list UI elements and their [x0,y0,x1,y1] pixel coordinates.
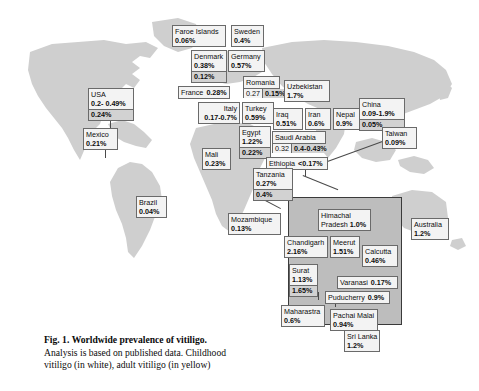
label-iraq[interactable]: Iraq 0.51% [273,108,303,130]
label-romania[interactable]: Romania 0.27 0.15% [243,76,280,98]
label-child-value: 0.6% [308,119,324,128]
label-name: USA [91,90,106,99]
label-child-value: 0.38% [194,61,214,70]
label-sweden[interactable]: Sweden 0.4% [231,25,264,47]
label-name: Pachai Malai [333,311,374,320]
label-usa[interactable]: USA 0.2- 0.49% 0.24% [88,88,134,121]
label-name: Uzbekistan [287,82,323,91]
label-adult-value: 0.24% [89,109,133,119]
label-nepal[interactable]: Nepal 0.9% [333,108,361,130]
label-name: Sri Lanka [347,332,377,341]
label-name: Mexico [86,130,109,139]
label-child-value: 0.13% [231,224,251,233]
label-child-value: 0.06% [175,36,195,45]
label-child-value: 0.6% [284,316,300,325]
label-saudi-arabia[interactable]: Saudi Arabia 0.32 0.4-0.43% [272,131,326,153]
label-value-split: 0.27 0.15% [244,88,279,98]
label-child-value: 0.17-0.7% [204,113,237,122]
caption-line-2: vitiligo (in white), adult vitiligo (in … [44,359,344,372]
label-child-value: 1.7% [287,91,303,100]
label-name: Puducherry [328,293,365,302]
label-child-value: 0.09-1.9% [362,109,395,118]
label-child-value: 0.32 [273,144,292,153]
label-mexico[interactable]: Mexico 0.21% [83,128,118,150]
label-egypt[interactable]: Egypt 1.22% 0.22% [239,126,271,159]
label-mozambique[interactable]: Mozambique 0.13% [228,213,281,235]
label-adult-value: 0.12% [192,71,226,81]
label-name: Himachal [321,211,351,220]
label-name: Denmark [194,52,223,61]
label-child-value: 0.09% [385,138,405,147]
label-name: Mozambique [231,215,272,224]
leader-pachai [318,292,319,300]
label-child-value: 0.23% [205,159,225,168]
label-varanasi[interactable]: Varanasi0.17% [337,276,398,289]
label-name: France [181,88,203,97]
label-puducherry[interactable]: Puducherry0.9% [325,291,390,304]
label-chandigarh[interactable]: Chandigarh 2.16% [284,236,328,258]
label-mali[interactable]: Mali 0.23% [202,148,231,170]
label-child-value: 0.21% [86,139,106,148]
label-faroe-islands[interactable]: Faroe Islands 0.06% [172,25,226,47]
label-name: Chandigarh [287,238,324,247]
label-name: Iran [308,110,320,119]
label-child-value: 0.94% [333,320,353,329]
label-taiwan[interactable]: Taiwan 0.09% [382,127,417,149]
label-child-value: 1.22% [242,137,262,146]
label-adult-value: 1.65% [290,285,317,295]
label-name: Calcutta [365,247,391,256]
label-child-value: 1.13% [292,275,312,284]
label-name: Tanzania [256,170,285,179]
label-child-value: 0.59% [245,113,265,122]
label-name: Mali [205,150,218,159]
label-germany[interactable]: Germany 0.57% [228,50,265,72]
label-surat[interactable]: Surat 1.13% 1.65% [289,264,318,297]
label-brazil[interactable]: Brazil 0.04% [136,196,167,218]
label-child-value: 0.46% [365,256,385,265]
label-name: Meerut [333,238,355,247]
label-child-value: 0.57% [231,61,251,70]
label-tanzania[interactable]: Tanzania 0.27% 0.4% [253,168,293,201]
label-china[interactable]: China 0.09-1.9% 0.05% [359,98,405,131]
label-calcutta[interactable]: Calcutta 0.46% [362,245,398,267]
label-uzbekistan[interactable]: Uzbekistan 1.7% [284,80,330,102]
label-turkey[interactable]: Turkey 0.59% [242,102,274,124]
label-name: Faroe Islands [175,27,219,36]
label-himachal-pradesh[interactable]: Himachal Pradesh 1.0% [318,209,371,231]
label-name: Romania [246,78,275,87]
label-france[interactable]: France0.28% [178,86,230,99]
label-denmark[interactable]: Denmark 0.38% 0.12% [191,50,227,83]
label-child-value: 1.2% [347,341,363,350]
caption-label: Fig. 1. [44,334,69,345]
label-child-value: 0.9% [368,293,384,302]
label-child-value: <0.17% [298,159,323,168]
label-iran[interactable]: Iran 0.6% [305,108,331,130]
label-name: Australia [414,220,442,229]
label-adult-value: 0.4% [254,189,292,199]
label-child-value: 2.16% [287,247,307,256]
label-name: Turkey [245,104,267,113]
label-pachai-malai[interactable]: Pachai Malai 0.94% [330,309,378,331]
label-child-value: 0.27 [244,89,263,98]
label-meerut[interactable]: Meerut 1.51% [330,236,360,258]
label-sri-lanka[interactable]: Sri Lanka 1.2% [344,330,380,352]
label-maharastra[interactable]: Maharastra 0.6% [281,305,325,327]
label-child-value: 0.28% [206,88,226,97]
label-name: Nepal [336,110,355,119]
label-child-value: 0.2- 0.49% [91,99,126,108]
label-child-value: 1.0% [350,220,366,229]
label-name: Saudi Arabia [275,133,316,142]
label-name: Italy [224,104,237,113]
label-name: Ethiopia [269,159,295,168]
caption-title: Worldwide prevalence of vitiligo [72,334,205,345]
label-italy[interactable]: Italy 0.17-0.7% [198,102,240,124]
caption-line-1: Analysis is based on published data. Chi… [44,347,344,360]
label-australia[interactable]: Australia 1.2% [411,218,449,240]
label-name-line2: Pradesh [321,220,348,229]
label-child-value: 0.9% [336,119,352,128]
leader-mexico [105,150,106,158]
figure-caption: Fig. 1. Worldwide prevalence of vitiligo… [44,334,344,372]
label-child-value: 1.2% [414,229,430,238]
label-child-value: 0.17% [371,278,391,287]
label-child-value: 0.27% [256,179,276,188]
